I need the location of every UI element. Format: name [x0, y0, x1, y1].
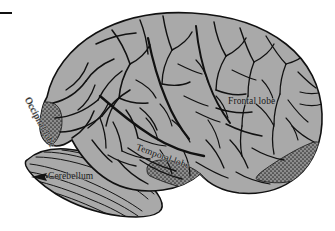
- label-cerebellum: Cerebellum: [48, 172, 93, 182]
- brain-diagram-figure: Frontal lobe Occipital lobe Temporal lob…: [0, 0, 335, 231]
- brain-illustration-svg: [0, 0, 335, 231]
- label-frontal-lobe: Frontal lobe: [228, 97, 275, 107]
